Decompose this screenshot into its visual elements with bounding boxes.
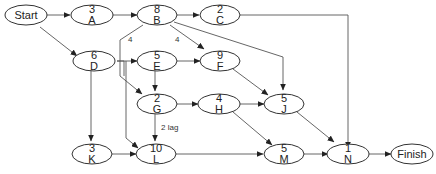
node-e: 5 E [137,49,177,72]
svg-text:N: N [344,153,352,165]
svg-text:A: A [88,14,96,26]
node-h: 4 H [198,92,240,115]
node-start: Start [5,5,47,25]
svg-text:L: L [153,153,159,165]
edge-f-j [233,69,268,95]
network-diagram: 4 4 2 lag Start 3 A 8 B 2 C 6 D 5 E 9 F … [0,0,436,174]
svg-text:D: D [90,60,98,72]
edge-d-g [117,61,124,76]
node-d: 6 D [73,49,115,72]
edge-h-m [233,112,272,145]
svg-text:J: J [281,103,287,115]
svg-text:H: H [215,103,223,115]
node-c: 2 C [200,3,240,26]
node-g: 2 G [137,92,177,115]
edge-label-g-l: 2 lag [161,123,178,132]
node-f: 9 F [200,49,240,72]
svg-text:B: B [153,14,160,26]
edge-start-d [40,27,77,56]
node-a: 3 A [71,3,113,26]
edge-d-l [126,61,138,148]
node-finish: Finish [391,144,433,164]
edge-c-n [240,15,348,148]
svg-text:M: M [279,153,288,165]
node-n: 1 N [327,142,369,165]
svg-text:Start: Start [14,9,37,21]
svg-text:F: F [217,60,224,72]
node-j: 5 J [264,92,304,115]
node-k: 3 K [72,142,112,165]
edge-label-b-f: 4 [175,35,180,44]
node-l: 10 L [136,142,176,165]
edges [40,15,391,154]
edge-j-n [297,112,334,142]
svg-text:E: E [153,60,160,72]
edge-label-b-g: 4 [128,35,133,44]
node-b: 8 B [137,3,177,26]
svg-text:K: K [88,153,96,165]
svg-text:C: C [216,14,224,26]
svg-text:G: G [153,103,162,115]
svg-text:Finish: Finish [397,148,426,160]
node-m: 5 M [264,142,304,165]
